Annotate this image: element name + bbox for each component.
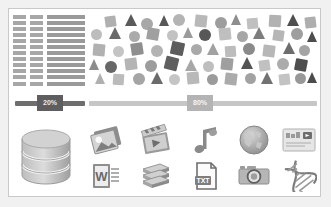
scatter-shape-square: [294, 58, 308, 72]
scatter-shape-circle: [113, 46, 124, 57]
table-cell-chip: [30, 45, 43, 49]
table-cell-chip: [13, 27, 26, 31]
table-row: [13, 51, 85, 55]
scatter-shape-triangle: [125, 14, 137, 26]
table-cell-chip: [30, 15, 43, 19]
table-cell-chip: [30, 39, 43, 43]
table-cell-bar: [47, 33, 85, 37]
globe-icon[interactable]: [231, 121, 277, 159]
scatter-shape-circle: [105, 61, 117, 73]
table-cell-bar: [47, 82, 85, 86]
table-cell-chip: [30, 69, 43, 73]
scatter-shape-circle: [291, 28, 303, 40]
table-cell-chip: [30, 27, 43, 31]
scatter-shape-square: [278, 73, 290, 85]
scatter-shape-circle: [207, 74, 218, 85]
table-cell-chip: [13, 75, 26, 79]
table-cell-chip: [13, 33, 26, 37]
table-cell-bar: [47, 51, 85, 55]
books-stack-icon[interactable]: [133, 157, 179, 195]
table-cell-chip: [13, 51, 26, 55]
table-cell-bar: [47, 15, 85, 19]
scatter-shape-square: [92, 43, 105, 56]
shape-scatter-cloud: [87, 11, 320, 91]
scatter-shape-circle: [151, 45, 163, 57]
table-cell-bar: [47, 39, 85, 43]
scatter-shape-square: [164, 56, 180, 72]
scatter-shape-square: [170, 41, 185, 56]
scatter-shape-circle: [169, 74, 180, 85]
scatter-shape-square: [186, 71, 199, 84]
photos-icon[interactable]: [83, 121, 129, 159]
scatter-shape-square: [130, 42, 144, 56]
table-row: [13, 82, 85, 86]
table-cell-chip: [13, 69, 26, 73]
media-card-icon[interactable]: [277, 121, 321, 159]
scatter-shape-square: [113, 74, 125, 86]
scatter-shape-square: [225, 46, 237, 58]
table-row: [13, 33, 85, 37]
top-band: [9, 9, 321, 93]
table-cell-chip: [13, 57, 26, 61]
scatter-shape-triangle: [159, 15, 169, 26]
table-cell-chip: [13, 45, 26, 49]
data-table-placeholder: [13, 15, 85, 89]
dna-helix-icon[interactable]: [277, 157, 321, 195]
word-document-icon[interactable]: W: [83, 157, 129, 195]
table-cell-chip: [30, 21, 43, 25]
scatter-shape-triangle: [89, 59, 99, 70]
scatter-shape-circle: [129, 31, 140, 42]
scatter-shape-square: [146, 27, 160, 41]
scatter-shape-triangle: [241, 57, 253, 69]
table-row: [13, 63, 85, 67]
table-cell-chip: [30, 51, 43, 55]
scatter-shape-square: [218, 27, 231, 40]
table-cell-chip: [13, 63, 26, 67]
progress-sliders: 20% 80%: [9, 93, 321, 119]
table-row: [13, 69, 85, 73]
table-cell-bar: [47, 27, 85, 31]
table-cell-chip: [30, 33, 43, 37]
slider-value-badge-20[interactable]: 20%: [37, 95, 63, 111]
table-cell-bar: [47, 45, 85, 49]
table-cell-chip: [13, 21, 26, 25]
progress-slider-20[interactable]: 20%: [15, 93, 85, 115]
table-cell-chip: [13, 82, 26, 86]
scatter-shape-circle: [237, 31, 248, 42]
scatter-shape-square: [258, 59, 270, 71]
scatter-shape-triangle: [207, 43, 219, 55]
video-clapperboard-icon[interactable]: [133, 121, 179, 159]
scatter-shape-circle: [91, 29, 102, 40]
scatter-shape-circle: [145, 60, 157, 72]
scatter-shape-triangle: [287, 14, 299, 26]
table-cell-bar: [47, 21, 85, 25]
scatter-shape-circle: [167, 30, 178, 41]
table-row: [13, 15, 85, 19]
file-type-icon-grid: W: [9, 119, 321, 197]
scatter-shape-square: [104, 15, 116, 27]
scatter-shape-square: [269, 15, 282, 28]
table-row: [13, 21, 85, 25]
scatter-shape-triangle: [151, 72, 163, 84]
scatter-shape-triangle: [253, 27, 265, 39]
scatter-shape-circle: [277, 58, 289, 70]
scatter-shape-triangle: [283, 42, 295, 54]
scatter-shape-square: [220, 57, 233, 70]
slider-value-badge-80[interactable]: 80%: [187, 95, 213, 111]
table-row: [13, 27, 85, 31]
table-row: [13, 45, 85, 49]
camera-icon[interactable]: [231, 157, 277, 195]
table-cell-chip: [13, 39, 26, 43]
scatter-shape-triangle: [185, 59, 197, 71]
music-note-icon[interactable]: [183, 121, 229, 159]
scatter-shape-square: [124, 57, 137, 70]
txt-file-icon[interactable]: TXT: [183, 157, 229, 195]
scatter-shape-square: [262, 44, 275, 57]
table-row: [13, 57, 85, 61]
scatter-shape-triangle: [261, 72, 273, 84]
table-cell-chip: [30, 63, 43, 67]
database-icon[interactable]: [15, 123, 77, 193]
progress-slider-80[interactable]: 80%: [89, 93, 317, 115]
table-row: [13, 75, 85, 79]
table-cell-bar: [47, 75, 85, 79]
